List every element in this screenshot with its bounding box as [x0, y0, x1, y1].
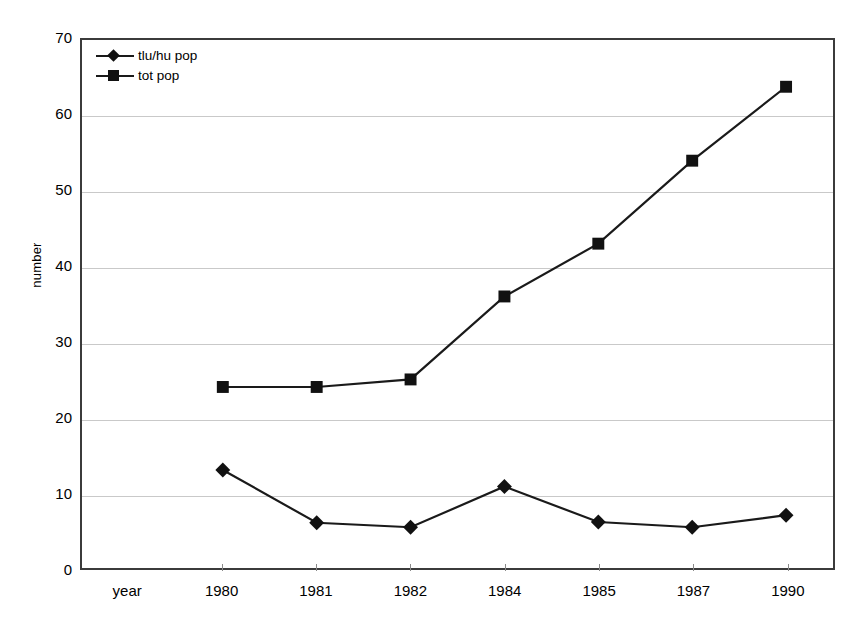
diamond-marker [309, 515, 324, 530]
x-tick-label: 1984 [488, 582, 521, 600]
legend: tlu/hu poptot pop [94, 46, 274, 86]
y-tick-label: 40 [32, 258, 72, 273]
square-marker [780, 81, 792, 93]
x-tick-label: 1981 [299, 582, 332, 600]
x-tick-mark [505, 564, 506, 571]
square-marker [108, 70, 119, 81]
line-chart: number 010203040506070 tlu/hu poptot pop… [0, 0, 861, 628]
x-tick-mark [410, 564, 411, 571]
legend-label: tlu/hu pop [136, 46, 197, 65]
y-tick-label: 60 [32, 106, 72, 121]
diamond-marker [215, 462, 230, 477]
square-marker [311, 381, 323, 393]
x-tick-mark [222, 564, 223, 571]
legend-key [94, 46, 136, 65]
x-axis-title: year [113, 582, 142, 600]
square-marker [217, 381, 229, 393]
diamond-marker [779, 508, 794, 523]
square-marker [405, 373, 417, 385]
square-marker [592, 238, 604, 250]
x-axis-tick-labels: year1980198119821984198519871990 [80, 578, 835, 600]
legend-item[interactable]: tot pop [94, 66, 274, 85]
diamond-marker [403, 520, 418, 535]
series-line [223, 470, 786, 527]
plot-area: tlu/hu poptot pop [80, 38, 835, 570]
series-layer [82, 40, 833, 568]
legend-item[interactable]: tlu/hu pop [94, 46, 274, 65]
diamond-marker [107, 49, 120, 62]
x-tick-label: 1985 [582, 582, 615, 600]
x-tick-mark [788, 564, 789, 571]
square-marker [498, 291, 510, 303]
x-tick-label: 1980 [205, 582, 238, 600]
y-tick-label: 20 [32, 410, 72, 425]
x-tick-label: 1987 [677, 582, 710, 600]
series-line [223, 87, 786, 387]
x-tick-mark [599, 564, 600, 571]
x-tick-label: 1990 [771, 582, 804, 600]
y-tick-label: 10 [32, 486, 72, 501]
square-marker [686, 155, 698, 167]
y-axis-tick-labels: 010203040506070 [26, 0, 72, 628]
diamond-marker [685, 520, 700, 535]
x-tick-mark [693, 564, 694, 571]
legend-key [94, 66, 136, 85]
x-tick-mark [316, 564, 317, 571]
y-tick-label: 30 [32, 334, 72, 349]
y-tick-label: 0 [32, 562, 72, 577]
y-tick-label: 70 [32, 30, 72, 45]
legend-label: tot pop [136, 66, 179, 85]
y-tick-label: 50 [32, 182, 72, 197]
x-tick-label: 1982 [394, 582, 427, 600]
diamond-marker [591, 515, 606, 530]
diamond-marker [497, 479, 512, 494]
